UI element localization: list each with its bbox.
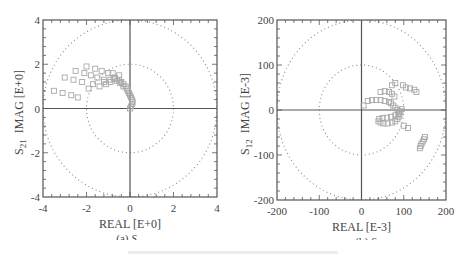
y-axis-label: S21IMAG [E+0] [12, 70, 28, 155]
y-tick-label: 2 [35, 58, 41, 70]
data-point-square [95, 75, 100, 80]
x-tick-label: 4 [214, 202, 220, 214]
panel-caption: (b) S12 [355, 235, 384, 240]
y-tick-label: -100 [254, 149, 275, 161]
x-tick-label: 100 [396, 205, 413, 217]
y-axis-label: S12IMAG [E-3] [238, 73, 254, 155]
x-tick-label: -200 [267, 205, 288, 217]
y-tick-label: 0 [269, 104, 275, 116]
data-point-square [60, 91, 65, 96]
data-point-square [71, 77, 76, 82]
data-series [361, 81, 427, 151]
data-point-square [51, 88, 56, 93]
y-tick-label: -4 [31, 191, 41, 203]
x-tick-label: 2 [171, 202, 177, 214]
data-point-square [84, 64, 89, 69]
x-axis-label: REAL [E+0] [99, 217, 161, 231]
panel-caption: (a) S21 [116, 232, 144, 240]
y-tick-label: 200 [258, 14, 275, 26]
x-axis-label: REAL [E-3] [332, 220, 391, 234]
x-tick-label: -2 [82, 202, 91, 214]
figure-caption-faint [128, 251, 338, 254]
y-tick-label: 4 [35, 14, 41, 26]
chart-panel-b: -200-10001002002001000-100-200REAL [E-3]… [235, 0, 471, 240]
y-tick-label: 0 [35, 103, 41, 115]
y-tick-label: -2 [31, 147, 40, 159]
y-tick-label: 100 [258, 59, 275, 71]
x-tick-label: 200 [438, 205, 455, 217]
chart-panel-a: -4-2024420-2-4REAL [E+0]S21IMAG [E+0](a)… [0, 0, 235, 240]
data-point-square [62, 75, 67, 80]
y-tick-label: -200 [254, 194, 275, 206]
data-point-square [82, 71, 87, 76]
x-tick-label: -4 [38, 202, 48, 214]
data-point-square [93, 66, 98, 71]
x-tick-label: -100 [309, 205, 330, 217]
data-point-square [88, 73, 93, 78]
data-point-square [75, 95, 80, 100]
data-point-square [73, 68, 78, 73]
data-point-square [80, 79, 85, 84]
data-point-square [69, 93, 74, 98]
x-tick-label: 0 [359, 205, 365, 217]
data-point-square [99, 68, 104, 73]
data-series [51, 64, 135, 111]
chart-a-canvas: -4-2024420-2-4REAL [E+0]S21IMAG [E+0](a)… [0, 0, 235, 240]
chart-b-canvas: -200-10001002002001000-100-200REAL [E-3]… [235, 0, 471, 240]
x-tick-label: 0 [127, 202, 133, 214]
